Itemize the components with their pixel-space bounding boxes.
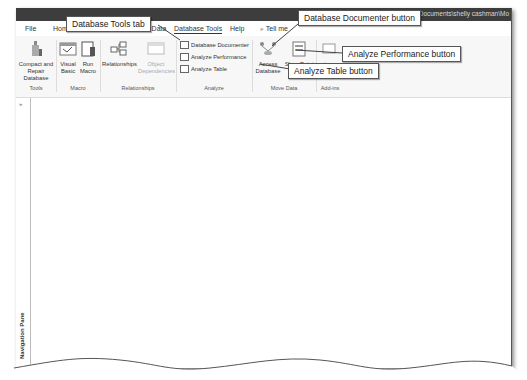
callout-database-tools-tab: Database Tools tab xyxy=(66,16,151,32)
callout-database-documenter: Database Documenter button xyxy=(298,10,421,26)
callout-analyze-table: Analyze Table button xyxy=(288,63,379,79)
callout-analyze-performance: Analyze Performance button xyxy=(342,46,461,62)
